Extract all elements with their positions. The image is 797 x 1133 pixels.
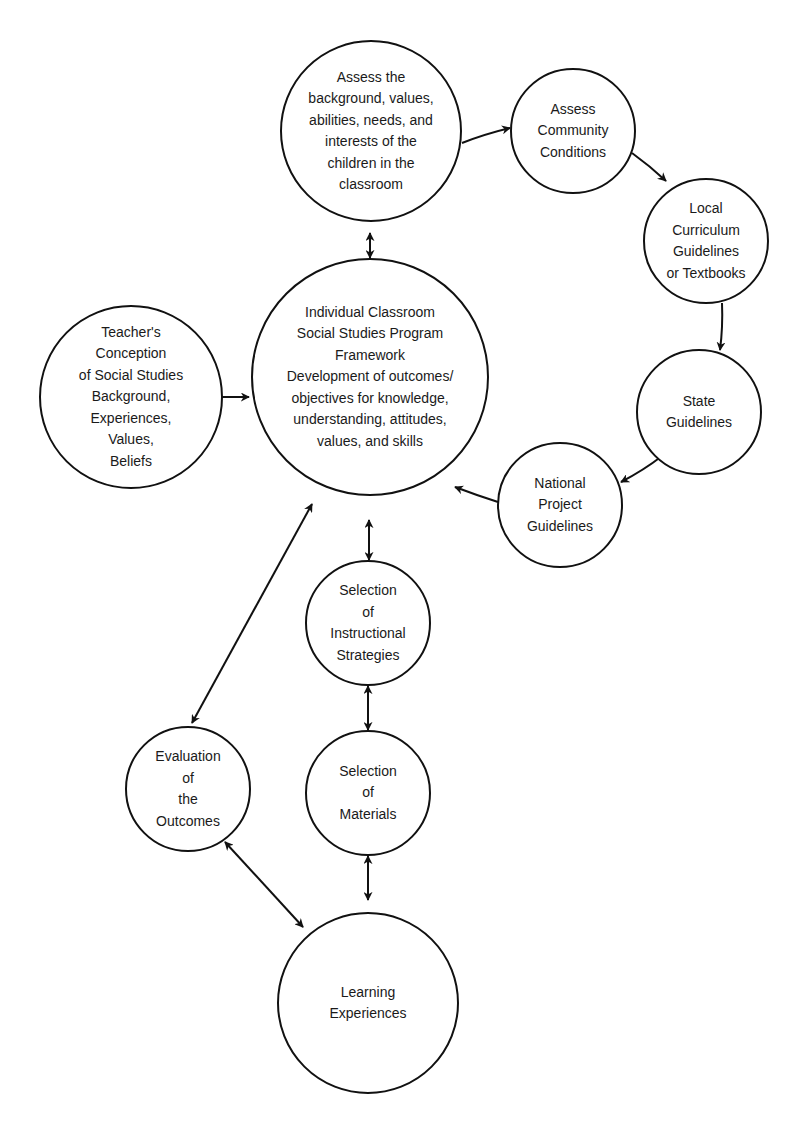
node-instructional-strategies [306, 561, 430, 685]
diagram-canvas [0, 0, 797, 1133]
edge-national-to-individual [455, 487, 498, 502]
node-individual-classroom [252, 259, 488, 495]
edge-local-curriculum-to-state [720, 303, 722, 350]
node-assess-community [511, 69, 635, 193]
node-learning-experiences [278, 913, 458, 1093]
node-state-guidelines [637, 350, 761, 474]
node-teacher-conception [40, 306, 222, 488]
node-national-project [498, 443, 622, 567]
node-assess-children [281, 41, 461, 221]
edge-state-to-national [621, 456, 662, 482]
node-materials [306, 731, 430, 855]
node-local-curriculum [644, 179, 768, 303]
edges [192, 128, 722, 927]
edge-assess-children-to-community [462, 128, 510, 143]
edge-evaluation-learning [225, 842, 303, 927]
edge-community-to-local-curriculum [632, 153, 666, 181]
nodes [40, 41, 768, 1093]
edge-individual-evaluation [192, 504, 312, 723]
node-evaluation [126, 727, 250, 851]
